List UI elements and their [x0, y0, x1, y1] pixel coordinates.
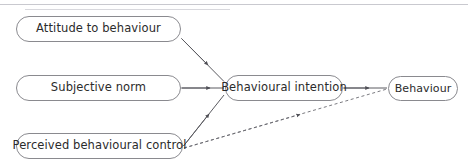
scan-artifact-line-top [0, 4, 468, 5]
node-label: Subjective norm [51, 82, 146, 95]
node-label: Perceived behavioural control [13, 140, 187, 153]
diagram-canvas: Attitude to behaviour Subjective norm Pe… [0, 0, 468, 168]
node-subjective-norm[interactable]: Subjective norm [16, 75, 181, 101]
node-behaviour[interactable]: Behaviour [388, 76, 458, 101]
node-label: Attitude to behaviour [36, 23, 161, 36]
node-perceived-behavioural-control[interactable]: Perceived behavioural control [16, 133, 183, 159]
node-attitude-to-behaviour[interactable]: Attitude to behaviour [16, 16, 181, 42]
scan-artifact-line-secondary [25, 9, 230, 10]
node-label: Behavioural intention [221, 82, 347, 95]
edge-attitude-to-intention [182, 39, 225, 82]
node-label: Behaviour [395, 83, 452, 95]
node-behavioural-intention[interactable]: Behavioural intention [225, 75, 343, 101]
